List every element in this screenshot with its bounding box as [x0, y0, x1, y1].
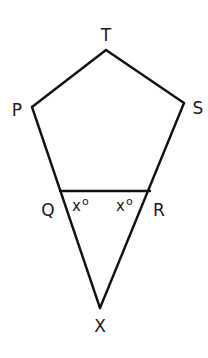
vertex-label-t: T: [100, 25, 112, 45]
vertex-label-r: R: [153, 200, 165, 220]
angle-label-q: x o: [72, 195, 89, 215]
angle-q-variable: x: [72, 197, 81, 215]
angle-q-degree: o: [82, 195, 89, 208]
angle-label-r: x o: [116, 195, 133, 215]
vertex-label-s: S: [193, 98, 204, 118]
angle-r-variable: x: [116, 197, 125, 215]
angle-r-degree: o: [126, 195, 133, 208]
vertex-label-q: Q: [41, 200, 54, 220]
line-s-to-x: [100, 103, 184, 308]
geometry-diagram: T P S Q R X x o x o: [0, 0, 208, 358]
edge-ts: [106, 50, 184, 103]
edge-pt: [32, 50, 106, 107]
vertex-label-x: X: [94, 316, 106, 336]
vertex-label-p: P: [12, 100, 22, 120]
